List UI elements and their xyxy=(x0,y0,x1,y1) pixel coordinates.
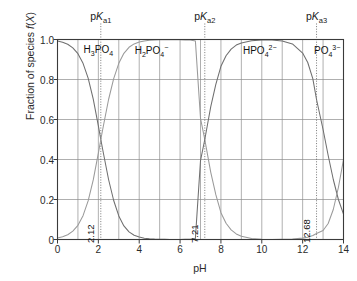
species-label-HPO42-: HPO42− xyxy=(243,44,277,58)
species-label-PO43-: PO43− xyxy=(314,44,340,58)
species-label-H3PO4: H3PO4 xyxy=(84,44,114,57)
pka-top-label-2: pKa2 xyxy=(194,10,215,25)
pka-value-label-1: 2.12 xyxy=(85,225,96,244)
pka-top-label-1: pKa1 xyxy=(90,10,111,25)
pka-value-label-2: 7.21 xyxy=(189,225,200,244)
pka-top-label-3: pKa3 xyxy=(306,10,327,25)
species-label-H2PO4-: H2PO4− xyxy=(135,44,169,58)
pka-value-label-3: 12.68 xyxy=(301,219,312,243)
phosphoric-acid-speciation-chart: Fraction of species f(X) 00.20.40.60.81.… xyxy=(0,0,357,281)
